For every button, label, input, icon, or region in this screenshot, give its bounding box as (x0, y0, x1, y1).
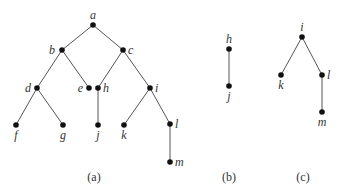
node-label-i: i (155, 81, 158, 95)
node-label-f: f (14, 128, 19, 142)
node-k (121, 122, 127, 128)
node-label-i: i (300, 20, 303, 34)
node-k (278, 72, 284, 78)
node-m (167, 159, 173, 165)
node-label-m: m (175, 155, 184, 169)
node-l (319, 72, 325, 78)
node-j (95, 122, 101, 128)
node-m (319, 109, 325, 115)
node-label-k: k (121, 128, 127, 142)
edge-a-b (62, 25, 93, 50)
node-label-a: a (90, 8, 96, 22)
node-label-e: e (78, 81, 84, 95)
node-label-l: l (327, 68, 331, 82)
node-g (60, 122, 66, 128)
node-b (59, 47, 65, 53)
node-h (95, 85, 101, 91)
node-label-g: g (60, 128, 66, 142)
edge-c-h (98, 50, 123, 88)
panel-caption: (b) (222, 170, 236, 184)
node-h (226, 46, 232, 52)
node-label-h: h (103, 81, 109, 95)
node-l (167, 121, 173, 127)
edge-i-l (150, 88, 170, 124)
node-i (299, 34, 305, 40)
node-label-j: j (225, 89, 231, 103)
edge-i-l (302, 37, 322, 75)
panel-caption: (a) (87, 170, 100, 184)
edge-b-e (62, 50, 89, 88)
node-e (86, 85, 92, 91)
node-j (226, 83, 232, 89)
node-i (147, 85, 153, 91)
node-c (120, 47, 126, 53)
edge-i-k (124, 88, 150, 125)
node-label-c: c (128, 43, 134, 57)
edge-d-g (37, 88, 63, 125)
node-label-b: b (49, 43, 55, 57)
edge-a-c (93, 25, 123, 50)
node-label-m: m (318, 115, 327, 129)
panel-b-subtree: hj(b) (222, 32, 236, 184)
tree-figure: abcdehifgjklm(a) hj(b) iklm(c) (0, 0, 345, 193)
node-label-d: d (25, 81, 32, 95)
panel-c-subtree: iklm(c) (278, 20, 331, 184)
edge-i-k (281, 37, 302, 75)
node-d (34, 85, 40, 91)
panel-a-tree: abcdehifgjklm(a) (13, 8, 184, 184)
node-label-k: k (278, 78, 284, 92)
panel-caption: (c) (296, 170, 309, 184)
node-label-j: j (94, 128, 100, 142)
node-a (90, 22, 96, 28)
node-label-h: h (226, 32, 232, 46)
node-f (13, 122, 19, 128)
node-label-l: l (175, 117, 179, 131)
